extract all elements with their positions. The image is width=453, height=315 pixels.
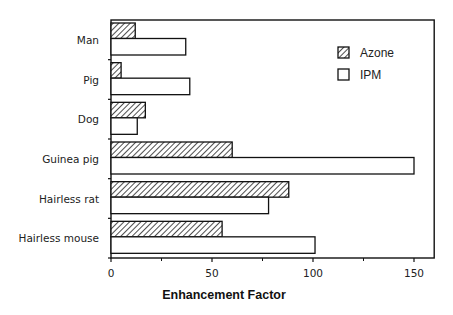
x-axis-title: Enhancement Factor <box>162 288 286 302</box>
bar-chart: ManPigDogGuinea pigHairless ratHairless … <box>0 0 453 315</box>
category-label: Pig <box>83 74 99 86</box>
bar-ipm <box>111 158 414 175</box>
bar-azone <box>111 102 145 118</box>
bar-azone <box>111 182 289 198</box>
bar-azone <box>111 63 121 79</box>
category-label: Hairless rat <box>39 193 99 205</box>
bar-azone <box>111 221 222 237</box>
x-tick-label: 100 <box>303 267 323 279</box>
x-tick-label: 150 <box>404 267 424 279</box>
legend-swatch-ipm <box>338 69 349 80</box>
bar-azone <box>111 142 232 158</box>
category-label: Hairless mouse <box>19 232 99 244</box>
bar-ipm <box>111 39 186 56</box>
bar-ipm <box>111 118 137 135</box>
x-axis: 050100150 <box>108 258 424 279</box>
bar-ipm <box>111 237 315 254</box>
legend-swatch-azone <box>338 47 349 58</box>
bar-ipm <box>111 197 269 214</box>
y-axis-labels: ManPigDogGuinea pigHairless ratHairless … <box>19 34 99 244</box>
legend: Azone IPM <box>338 46 394 82</box>
x-tick-label: 0 <box>108 267 115 279</box>
legend-label-ipm: IPM <box>360 68 381 82</box>
bar-ipm <box>111 78 190 95</box>
bar-azone <box>111 23 135 39</box>
legend-label-azone: Azone <box>360 46 394 60</box>
category-label: Guinea pig <box>42 153 99 165</box>
category-label: Man <box>77 34 99 46</box>
x-tick-label: 50 <box>205 267 218 279</box>
category-label: Dog <box>78 113 99 125</box>
